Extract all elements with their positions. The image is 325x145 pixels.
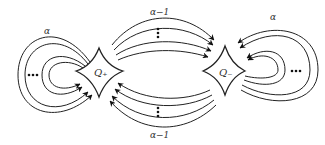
node-q-minus: Q₋: [203, 46, 245, 95]
left-loop-edges: [18, 37, 92, 113]
right-loop-label: α: [270, 12, 276, 22]
node-q-plus-label: Q₊: [94, 67, 107, 78]
top-bundle-label: α−1: [150, 7, 169, 17]
bottom-bundle-label: α−1: [150, 130, 169, 140]
top-bundle-edges: [112, 18, 214, 60]
top-bundle-ellipsis: [157, 28, 160, 39]
left-loop-ellipsis: [28, 74, 39, 77]
right-loop-ellipsis: [291, 70, 302, 73]
right-loop-edges: [238, 30, 318, 100]
left-loop-label: α: [44, 26, 50, 36]
node-q-minus-label: Q₋: [219, 67, 232, 78]
bottom-bundle-edges: [110, 83, 216, 127]
graph-diagram: Q₊ Q₋ α α−1 α−1 α: [0, 0, 325, 145]
bottom-bundle-ellipsis: [157, 107, 160, 118]
